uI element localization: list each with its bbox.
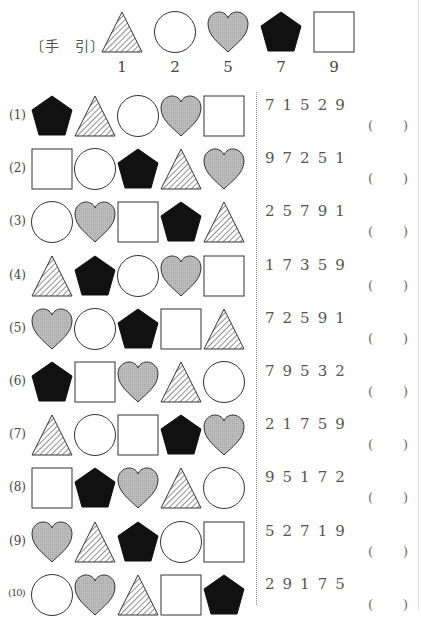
digit-sequence: 95172	[265, 468, 353, 486]
pentagon-icon	[116, 520, 160, 564]
key-value: 9	[312, 58, 356, 76]
circle-icon	[73, 147, 117, 191]
digit-sequence: 17359	[265, 256, 353, 274]
square-icon	[30, 147, 74, 191]
answer-open-paren: (	[368, 437, 373, 452]
answer-blank[interactable]: ()	[368, 171, 408, 186]
heart-icon	[202, 147, 246, 191]
pentagon-icon	[259, 10, 303, 54]
heart-icon	[159, 94, 203, 138]
pentagon-icon	[73, 466, 117, 510]
pentagon-icon	[159, 413, 203, 457]
answer-blank[interactable]: ()	[368, 544, 408, 559]
pentagon-icon	[116, 307, 160, 351]
digit-sequence: 71529	[265, 96, 353, 114]
digit-sequence: 21759	[265, 415, 353, 433]
circle-icon	[202, 360, 246, 404]
problem-number: (7)	[9, 427, 26, 441]
answer-close-paren: )	[403, 384, 408, 399]
problem-number: (8)	[9, 480, 26, 494]
pentagon-icon	[116, 147, 160, 191]
key-value: 1	[100, 58, 144, 76]
square-icon	[159, 307, 203, 351]
heart-icon	[73, 200, 117, 244]
circle-icon	[30, 200, 74, 244]
answer-open-paren: (	[368, 384, 373, 399]
hatched-triangle-icon	[159, 147, 203, 191]
pentagon-icon	[30, 360, 74, 404]
answer-close-paren: )	[403, 490, 408, 505]
answer-blank[interactable]: ()	[368, 278, 408, 293]
hatched-triangle-icon	[116, 573, 160, 617]
square-icon	[202, 254, 246, 298]
digit-sequence: 97251	[265, 149, 353, 167]
problem-number: (1)	[9, 108, 26, 122]
pentagon-icon	[30, 94, 74, 138]
digit-sequence: 25791	[265, 202, 353, 220]
key-label: 〔手 引〕	[30, 35, 105, 55]
answer-open-paren: (	[368, 544, 373, 559]
square-icon	[116, 413, 160, 457]
hatched-triangle-icon	[159, 360, 203, 404]
heart-icon	[30, 307, 74, 351]
heart-icon	[30, 520, 74, 564]
answer-close-paren: )	[403, 224, 408, 239]
circle-icon	[116, 94, 160, 138]
problem-number: (2)	[9, 161, 26, 175]
answer-close-paren: )	[403, 278, 408, 293]
answer-open-paren: (	[368, 331, 373, 346]
pentagon-icon	[202, 573, 246, 617]
square-icon	[73, 360, 117, 404]
problem-number: (9)	[9, 534, 26, 548]
answer-open-paren: (	[368, 278, 373, 293]
problem-number: (10)	[8, 587, 25, 598]
square-icon	[202, 94, 246, 138]
problem-number: (4)	[9, 268, 26, 282]
square-icon	[159, 573, 203, 617]
pentagon-icon	[73, 254, 117, 298]
square-icon	[202, 520, 246, 564]
answer-close-paren: )	[403, 171, 408, 186]
answer-blank[interactable]: ()	[368, 490, 408, 505]
answer-close-paren: )	[403, 331, 408, 346]
answer-open-paren: (	[368, 490, 373, 505]
answer-open-paren: (	[368, 171, 373, 186]
circle-icon	[159, 520, 203, 564]
key-value: 2	[153, 58, 197, 76]
answer-close-paren: )	[403, 118, 408, 133]
hatched-triangle-icon	[159, 466, 203, 510]
circle-icon	[73, 413, 117, 457]
hatched-triangle-icon	[30, 254, 74, 298]
dotted-divider	[256, 92, 257, 605]
answer-close-paren: )	[403, 544, 408, 559]
answer-close-paren: )	[403, 597, 408, 612]
problem-number: (3)	[9, 214, 26, 228]
circle-icon	[73, 307, 117, 351]
hatched-triangle-icon	[202, 307, 246, 351]
answer-blank[interactable]: ()	[368, 118, 408, 133]
heart-icon	[159, 254, 203, 298]
heart-icon	[206, 10, 250, 54]
square-icon	[312, 10, 356, 54]
hatched-triangle-icon	[30, 413, 74, 457]
page-edge	[418, 0, 419, 610]
circle-icon	[202, 466, 246, 510]
key-value: 5	[206, 58, 250, 76]
answer-blank[interactable]: ()	[368, 384, 408, 399]
hatched-triangle-icon	[73, 520, 117, 564]
answer-blank[interactable]: ()	[368, 597, 408, 612]
circle-icon	[30, 573, 74, 617]
answer-blank[interactable]: ()	[368, 437, 408, 452]
answer-blank[interactable]: ()	[368, 331, 408, 346]
key-value: 7	[259, 58, 303, 76]
heart-icon	[202, 413, 246, 457]
answer-blank[interactable]: ()	[368, 224, 408, 239]
square-icon	[30, 466, 74, 510]
heart-icon	[73, 573, 117, 617]
answer-open-paren: (	[368, 597, 373, 612]
digit-sequence: 29175	[265, 575, 353, 593]
digit-sequence: 52719	[265, 522, 353, 540]
digit-sequence: 79532	[265, 362, 353, 380]
problem-number: (6)	[9, 374, 26, 388]
square-icon	[116, 200, 160, 244]
